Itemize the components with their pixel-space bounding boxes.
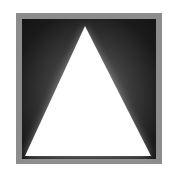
figure-canvas — [0, 0, 171, 177]
white-triangle-icon — [0, 0, 171, 177]
